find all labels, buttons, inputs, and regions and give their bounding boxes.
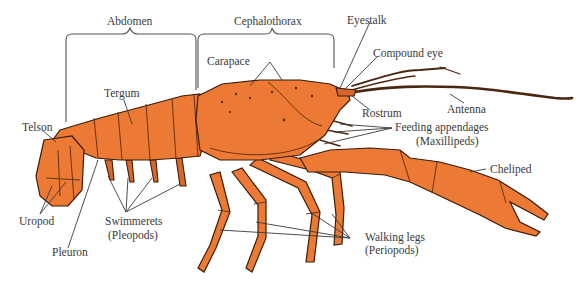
- label-abdomen: Abdomen: [107, 15, 153, 27]
- label-feeding-appendages: Feeding appendages: [395, 121, 489, 134]
- label-rostrum: Rostrum: [362, 107, 402, 119]
- crayfish-anatomy-diagram: Abdomen Cephalothorax Eyestalk Compound …: [0, 0, 584, 291]
- label-antenna: Antenna: [447, 103, 486, 115]
- label-maxillipeds: (Maxillipeds): [416, 135, 479, 148]
- label-swimmerets: Swimmerets: [105, 215, 163, 227]
- label-carapace: Carapace: [207, 55, 250, 68]
- label-telson: Telson: [22, 121, 53, 133]
- label-eyestalk: Eyestalk: [347, 14, 387, 27]
- label-walking-legs: Walking legs: [365, 231, 426, 244]
- tail-fan: [36, 136, 84, 206]
- label-cheliped: Cheliped: [490, 163, 532, 176]
- cephalothorax: [196, 80, 356, 160]
- label-pleopods: (Pleopods): [108, 229, 158, 242]
- label-uropod: Uropod: [19, 215, 54, 228]
- label-pleuron: Pleuron: [52, 246, 88, 258]
- label-cephalothorax: Cephalothorax: [234, 15, 302, 28]
- label-compound-eye: Compound eye: [373, 47, 443, 60]
- label-periopods: (Periopods): [365, 244, 419, 257]
- antennae: [352, 67, 572, 99]
- label-tergum: Tergum: [104, 87, 139, 100]
- swimmerets: [105, 158, 186, 186]
